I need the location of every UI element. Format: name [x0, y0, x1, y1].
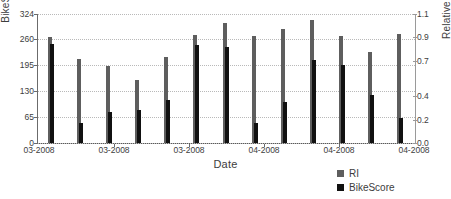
y-axis-right-tick-2: 0.4 — [417, 91, 429, 101]
x-axis-ticklabels: 03-200803-200803-200804-200804-200804-20… — [0, 145, 451, 157]
bar-bikescore — [137, 110, 141, 143]
legend-item-ri[interactable]: RI — [337, 166, 395, 180]
x-axis-tick-5: 04-2008 — [398, 145, 429, 155]
bar-series-group — [37, 14, 416, 143]
bar-bikescore — [283, 102, 287, 143]
legend-swatch-icon — [337, 170, 344, 177]
bar-bikescore — [195, 45, 199, 143]
y-axis-right-ticklabels: 0.00.20.40.70.91.1 — [417, 0, 443, 199]
y-axis-right-tick-4: 0.9 — [417, 32, 429, 42]
y-axis-left-tick-5: 324 — [20, 9, 34, 19]
gridline-h — [38, 143, 415, 144]
chart-figure: BikeScore Relative Intensity Date 065130… — [0, 0, 451, 199]
y-axis-left-tick-3: 195 — [20, 60, 34, 70]
y-axis-left-tick-4: 260 — [20, 34, 34, 44]
tickmark-left — [34, 143, 38, 144]
legend-swatch-icon — [337, 184, 344, 191]
x-axis-tick-2: 03-2008 — [173, 145, 204, 155]
x-axis-tick-0: 03-2008 — [23, 145, 54, 155]
bar-bikescore — [50, 44, 54, 143]
x-axis-tick-4: 04-2008 — [323, 145, 354, 155]
legend-label: RI — [349, 168, 359, 179]
tickmark-right — [413, 143, 417, 144]
plot-area — [37, 14, 416, 143]
bar-bikescore — [399, 118, 403, 143]
chart-legend: RIBikeScore — [337, 166, 395, 194]
x-axis-tick-1: 03-2008 — [98, 145, 129, 155]
y-axis-right-tick-5: 1.1 — [417, 9, 429, 19]
bar-bikescore — [341, 65, 345, 143]
legend-item-bikescore[interactable]: BikeScore — [337, 180, 395, 194]
bar-bikescore — [79, 123, 83, 143]
bar-bikescore — [166, 100, 170, 143]
bar-bikescore — [225, 47, 229, 143]
y-axis-left-tick-1: 65 — [25, 112, 34, 122]
bar-bikescore — [108, 112, 112, 143]
legend-label: BikeScore — [349, 182, 395, 193]
bar-bikescore — [254, 123, 258, 143]
bar-bikescore — [312, 60, 316, 143]
x-axis-tick-3: 04-2008 — [248, 145, 279, 155]
y-axis-left-tick-2: 130 — [20, 86, 34, 96]
y-axis-right-tick-3: 0.7 — [417, 56, 429, 66]
bar-bikescore — [370, 95, 374, 143]
y-axis-right-tick-1: 0.2 — [417, 115, 429, 125]
y-axis-left-ticklabels: 065130195260324 — [8, 0, 34, 199]
